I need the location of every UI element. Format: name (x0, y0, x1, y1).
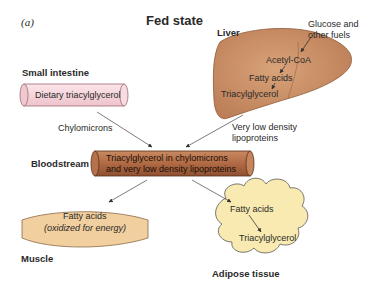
small-intestine-label: Small intestine (22, 67, 89, 78)
glucose-line1: Glucose and (308, 19, 359, 30)
liver-triacylglycerol: Triacylglycerol (221, 89, 278, 100)
bloodstream-line2: and very low density lipoproteins (106, 164, 236, 175)
muscle-label: Muscle (21, 253, 53, 264)
fed-state-diagram: (a) Fed state Small intestine Dietary tr… (0, 0, 378, 293)
liver-acetylcoa: Acetyl-CoA (266, 55, 311, 66)
bloodstream-line1: Triacylglycerol in chylomicrons (106, 153, 228, 164)
diagram-graphics (0, 0, 378, 293)
adipose-triacylglycerol: Triacylglycerol (239, 233, 296, 244)
dietary-tag-text: Dietary triacylglycerol (35, 90, 121, 101)
muscle-oxidized: (oxidized for energy) (44, 223, 126, 234)
muscle-fatty-acids: Fatty acids (63, 211, 107, 222)
diagram-title: Fed state (146, 15, 203, 26)
vldl-label-line2: lipoproteins (232, 133, 278, 144)
glucose-line2: other fuels (308, 30, 350, 41)
panel-label: (a) (21, 17, 34, 28)
liver-fatty-acids: Fatty acids (249, 73, 293, 84)
bloodstream-label: Bloodstream (31, 158, 89, 169)
chylomicrons-label: Chylomicrons (58, 123, 113, 134)
adipose-label: Adipose tissue (212, 268, 280, 279)
vldl-label-line1: Very low density (232, 122, 297, 133)
to-muscle-arrow (109, 180, 147, 202)
liver-label: Liver (217, 27, 240, 38)
adipose-fatty-acids: Fatty acids (230, 204, 274, 215)
